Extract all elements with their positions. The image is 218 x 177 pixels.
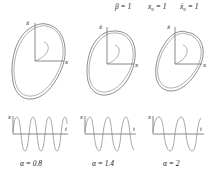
phase-portrait-3: ẋ x: [146, 18, 216, 110]
svg-text:ẋ: ẋ: [98, 23, 103, 31]
svg-text:x: x: [80, 113, 83, 120]
waveform-1: x t: [8, 110, 74, 158]
svg-text:x: x: [64, 58, 69, 66]
parameter-xdot0: ẋ₀ = 1: [180, 3, 199, 11]
svg-text:x: x: [148, 113, 151, 120]
svg-text:x: x: [134, 61, 139, 69]
caption-panel-2: α = 1.4: [92, 160, 114, 168]
figure-container: β = 1 x₀ = 1 ẋ₀ = 1 ẋ x ẋ x ẋ x: [0, 0, 218, 177]
svg-text:t: t: [65, 125, 67, 132]
phase-portrait-1: ẋ x: [2, 14, 76, 110]
svg-text:x: x: [8, 113, 11, 120]
waveform-2: x t: [80, 110, 142, 158]
svg-text:ẋ: ẋ: [166, 23, 171, 31]
parameter-x0: x₀ = 1: [148, 3, 167, 11]
svg-text:x: x: [202, 61, 207, 69]
svg-text:ẋ: ẋ: [25, 19, 30, 27]
caption-panel-3: α = 2: [163, 160, 180, 168]
svg-text:t: t: [133, 125, 135, 132]
caption-panel-1: α = 0.8: [20, 160, 42, 168]
parameter-beta: β = 1: [115, 3, 131, 11]
svg-text:t: t: [200, 125, 202, 132]
waveform-3: x t: [148, 110, 212, 158]
phase-portrait-2: ẋ x: [76, 16, 146, 110]
